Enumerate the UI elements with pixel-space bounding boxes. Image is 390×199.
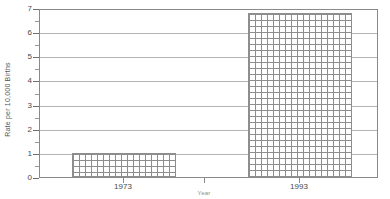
y-tick-label: 5	[18, 53, 32, 61]
x-tick-mark	[123, 178, 124, 183]
x-tick-label: 1993	[290, 183, 308, 191]
y-tick-label: 4	[18, 77, 32, 85]
y-tick-label: 6	[18, 29, 32, 37]
bar-1973	[72, 153, 176, 177]
x-axis-title: Year	[198, 190, 211, 196]
y-tick-label: 2	[18, 126, 32, 134]
plot-area	[39, 9, 378, 178]
chart-screenshot: Rate per 10,000 Births 0 1 2 3 4 5 6 7	[0, 0, 390, 199]
y-tick-label: 0	[18, 174, 32, 182]
y-tick-label: 7	[18, 5, 32, 13]
y-axis-tick-labels: 0 1 2 3 4 5 6 7	[12, 0, 32, 199]
y-tick-label: 3	[18, 102, 32, 110]
x-tick-mark	[299, 178, 300, 183]
y-tick-label: 1	[18, 150, 32, 158]
y-tick-mark	[33, 178, 39, 179]
x-tick-mark	[204, 178, 205, 183]
bar-1993	[248, 13, 352, 177]
x-tick-label: 1973	[114, 183, 132, 191]
